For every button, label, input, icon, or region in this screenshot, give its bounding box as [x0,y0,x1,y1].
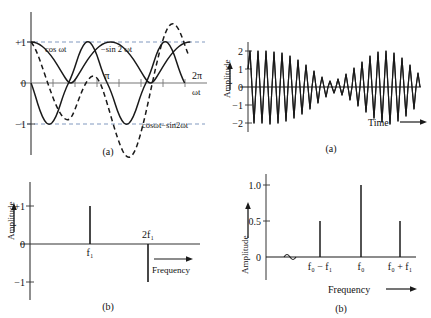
x-axis-label-group: Frequency [328,284,417,295]
xtick-lower-sideband: f₀ − f₁ [308,261,332,272]
ytick-zero: 0 [238,82,243,93]
y-axis-label: Amplitude [222,59,232,98]
x-axis-label: Frequency [152,265,190,275]
x-axis-label: ωt [192,87,201,97]
y-axis-label-group: Amplitude [222,59,233,98]
ytick-two: 2 [238,46,243,57]
xtick-f1: f₁ [87,247,94,258]
x-axis-label: Frequency [328,284,370,295]
x-axis-label-group: Frequency [152,256,193,275]
ytick-minus-two: −2 [232,118,243,129]
label-sum: cosωt−sin2ωt [142,120,189,130]
xtick-2f1: 2f₁ [142,229,154,240]
ytick-one-point-zero: 1.0 [249,180,262,191]
x-axis-label: Time [368,117,389,128]
label-cos-wt: cos ωt [45,44,67,54]
ytick-zero: 0 [21,78,26,89]
y-axis-label-group: Amplitude [240,202,251,274]
bottom-right-chart: Amplitude 1.0 0.5 0 f₀ − f₁ f₀ f₀ + f₁ F… [216,160,431,318]
caption-a-right: (a) [325,143,336,155]
caption-b-left: (b) [102,301,114,313]
caption-a-left: (a) [102,146,113,158]
panel-top-left: +1 0 −1 π 2π ωt cos ωt −sin 2 ωt cosωt−s… [0,0,216,160]
ytick-plus-one: +1 [14,201,25,212]
ytick-one: 1 [238,64,243,75]
ytick-zero: 0 [256,252,261,263]
label-minus-sin-2wt: −sin 2 ωt [101,44,133,54]
xtick-two-pi: 2π [192,70,202,81]
top-right-chart: Amplitude 2 1 0 −1 −2 Time (a) [216,0,431,160]
top-left-chart: +1 0 −1 π 2π ωt cos ωt −sin 2 ωt cosωt−s… [0,0,216,160]
ytick-minus-one: −1 [15,119,26,130]
bottom-left-chart: Amplitude Frequency +1 0 −1 f₁ 2f₁ (b) [0,160,216,318]
panel-top-right: Amplitude 2 1 0 −1 −2 Time (a) [216,0,431,160]
caption-b-right: (b) [335,303,347,315]
panel-bottom-right: Amplitude 1.0 0.5 0 f₀ − f₁ f₀ f₀ + f₁ F… [216,160,431,318]
ytick-zero-point-five: 0.5 [249,216,262,227]
xtick-upper-sideband: f₀ + f₁ [388,261,412,272]
panel-bottom-left: Amplitude Frequency +1 0 −1 f₁ 2f₁ (b) [0,160,216,318]
ytick-zero: 0 [20,239,25,250]
ytick-minus-one: −1 [14,277,25,288]
xtick-pi: π [104,70,109,81]
xtick-carrier: f₀ [358,261,365,272]
ytick-minus-one: −1 [232,100,243,111]
ytick-plus-one: +1 [15,37,26,48]
y-axis-label: Amplitude [240,235,250,274]
